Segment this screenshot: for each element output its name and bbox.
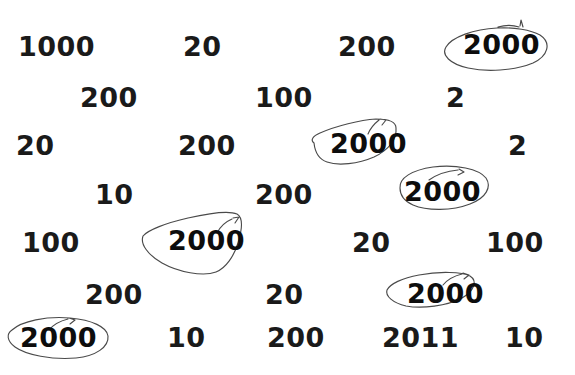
number-token[interactable]: 200 <box>178 132 236 159</box>
number-token[interactable]: 200 <box>85 281 143 308</box>
number-token[interactable]: 20 <box>183 33 222 60</box>
number-token[interactable]: 200 <box>80 84 138 111</box>
worksheet-canvas: 1000202002000200100220200200021020020001… <box>0 0 575 375</box>
number-token[interactable]: 2 <box>446 84 465 111</box>
number-token[interactable]: 1000 <box>18 33 95 60</box>
number-token[interactable]: 10 <box>95 181 134 208</box>
number-token[interactable]: 200 <box>338 33 396 60</box>
number-token[interactable]: 20 <box>265 281 304 308</box>
number-token[interactable]: 100 <box>486 229 544 256</box>
number-token[interactable]: 2 <box>508 132 527 159</box>
number-token-circled[interactable]: 2000 <box>168 227 245 254</box>
number-token[interactable]: 200 <box>267 324 325 351</box>
number-token[interactable]: 100 <box>255 84 313 111</box>
number-token[interactable]: 20 <box>352 229 391 256</box>
number-token-circled[interactable]: 2000 <box>404 178 481 205</box>
number-token[interactable]: 100 <box>22 229 80 256</box>
number-token-circled[interactable]: 2000 <box>407 280 484 307</box>
number-token[interactable]: 10 <box>167 324 206 351</box>
number-token[interactable]: 20 <box>16 132 55 159</box>
number-token-circled[interactable]: 2000 <box>20 324 97 351</box>
number-token-circled[interactable]: 2000 <box>330 130 407 157</box>
number-token[interactable]: 10 <box>505 324 544 351</box>
number-token[interactable]: 200 <box>255 181 313 208</box>
number-token-circled[interactable]: 2000 <box>463 31 540 58</box>
number-token[interactable]: 2011 <box>382 324 459 351</box>
